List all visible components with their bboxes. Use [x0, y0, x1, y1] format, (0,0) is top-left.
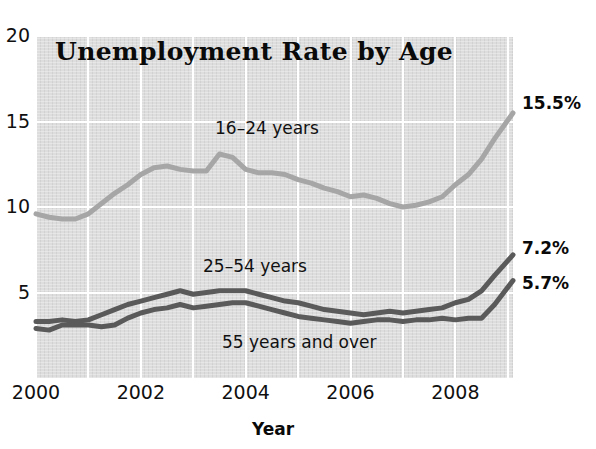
x-tick-label: 2004	[206, 383, 286, 402]
end-value-55-over: 5.7%	[522, 275, 569, 292]
series-label-55-over: 55 years and over	[222, 334, 377, 351]
x-tick-label: 2006	[311, 383, 391, 402]
x-tick-label: 2000	[0, 383, 76, 402]
y-tick-label: 5	[0, 283, 30, 302]
unemployment-rate-chart: 5101520 20002002200420062008 Unemploymen…	[0, 0, 596, 449]
y-tick-label: 10	[0, 197, 30, 216]
end-value-25-54: 7.2%	[522, 240, 569, 257]
data-lines-layer	[36, 36, 513, 378]
data-line-55-years-and-over	[36, 281, 513, 331]
y-tick-label: 20	[0, 26, 30, 45]
x-tick-label: 2008	[415, 383, 495, 402]
y-tick-label: 15	[0, 112, 30, 131]
x-axis-title: Year	[0, 419, 546, 439]
series-label-25-54: 25–54 years	[203, 258, 307, 275]
end-value-16-24: 15.5%	[522, 95, 581, 112]
x-tick-label: 2002	[101, 383, 181, 402]
chart-title: Unemployment Rate by Age	[55, 37, 453, 66]
series-label-16-24: 16–24 years	[215, 120, 319, 137]
